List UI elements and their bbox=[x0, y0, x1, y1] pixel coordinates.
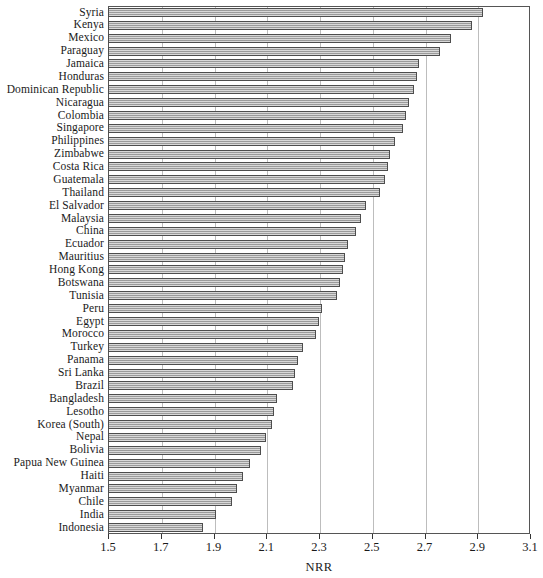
x-tick-mark bbox=[161, 534, 162, 539]
bar-row bbox=[108, 109, 530, 122]
x-tick-label: 1.9 bbox=[194, 540, 234, 555]
category-label: Indonesia bbox=[0, 521, 104, 534]
category-label: Botswana bbox=[0, 276, 104, 289]
category-label: Panama bbox=[0, 353, 104, 366]
bar-row bbox=[108, 122, 530, 135]
bar-row bbox=[108, 6, 530, 19]
bar-row bbox=[108, 238, 530, 251]
bar-row bbox=[108, 45, 530, 58]
bar-row bbox=[108, 251, 530, 264]
bar-row bbox=[108, 470, 530, 483]
bar-row bbox=[108, 418, 530, 431]
bar-row bbox=[108, 444, 530, 457]
bar-row bbox=[108, 161, 530, 174]
bar bbox=[108, 394, 277, 403]
category-label: Peru bbox=[0, 302, 104, 315]
category-label: Honduras bbox=[0, 70, 104, 83]
bar bbox=[108, 278, 340, 287]
bar-row bbox=[108, 289, 530, 302]
bar bbox=[108, 253, 345, 262]
bar-row bbox=[108, 405, 530, 418]
bar bbox=[108, 291, 337, 300]
category-label: Mauritius bbox=[0, 250, 104, 263]
category-label: Colombia bbox=[0, 109, 104, 122]
bar-row bbox=[108, 186, 530, 199]
bar bbox=[108, 510, 216, 519]
x-tick-label: 3.1 bbox=[510, 540, 543, 555]
category-label: Malaysia bbox=[0, 212, 104, 225]
bar bbox=[108, 162, 388, 171]
bar bbox=[108, 47, 440, 56]
bar bbox=[108, 330, 316, 339]
category-label: Mexico bbox=[0, 31, 104, 44]
bar-row bbox=[108, 32, 530, 45]
bar bbox=[108, 407, 274, 416]
bar-row bbox=[108, 367, 530, 380]
x-tick-mark bbox=[372, 534, 373, 539]
bar bbox=[108, 484, 237, 493]
bar bbox=[108, 59, 419, 68]
bar-row bbox=[108, 315, 530, 328]
category-label: Ecuador bbox=[0, 237, 104, 250]
category-label: Nepal bbox=[0, 430, 104, 443]
bar-row bbox=[108, 521, 530, 534]
bar-row bbox=[108, 302, 530, 315]
category-label: Morocco bbox=[0, 327, 104, 340]
bar-row bbox=[108, 495, 530, 508]
bar bbox=[108, 111, 406, 120]
bar bbox=[108, 137, 395, 146]
bar-row bbox=[108, 58, 530, 71]
bar bbox=[108, 523, 203, 532]
category-label: Nicaragua bbox=[0, 96, 104, 109]
bar-row bbox=[108, 225, 530, 238]
bar-row bbox=[108, 508, 530, 521]
bar bbox=[108, 85, 414, 94]
x-tick-mark bbox=[319, 534, 320, 539]
bar bbox=[108, 304, 322, 313]
category-label: Dominican Republic bbox=[0, 83, 104, 96]
bar-row bbox=[108, 457, 530, 470]
category-label: Guatemala bbox=[0, 173, 104, 186]
bar-row bbox=[108, 264, 530, 277]
category-label: Bangladesh bbox=[0, 392, 104, 405]
bar bbox=[108, 124, 403, 133]
x-tick-mark bbox=[425, 534, 426, 539]
x-tick-label: 2.7 bbox=[405, 540, 445, 555]
category-label: Papua New Guinea bbox=[0, 456, 104, 469]
x-tick-mark bbox=[214, 534, 215, 539]
bar-row bbox=[108, 212, 530, 225]
bar bbox=[108, 265, 343, 274]
bar bbox=[108, 21, 472, 30]
bars-layer bbox=[108, 6, 530, 534]
bar-row bbox=[108, 392, 530, 405]
bar bbox=[108, 420, 272, 429]
x-tick-label: 1.5 bbox=[88, 540, 128, 555]
category-label: Zimbabwe bbox=[0, 147, 104, 160]
category-label: Philippines bbox=[0, 134, 104, 147]
category-label: China bbox=[0, 224, 104, 237]
x-tick-label: 2.5 bbox=[352, 540, 392, 555]
bar bbox=[108, 201, 366, 210]
category-label: Lesotho bbox=[0, 405, 104, 418]
bar bbox=[108, 459, 250, 468]
bar-row bbox=[108, 173, 530, 186]
bar-row bbox=[108, 276, 530, 289]
x-tick-mark bbox=[477, 534, 478, 539]
bar bbox=[108, 343, 303, 352]
bar-row bbox=[108, 379, 530, 392]
bar-row bbox=[108, 83, 530, 96]
category-label: Thailand bbox=[0, 186, 104, 199]
x-axis: NRR 1.51.71.92.12.32.52.72.93.1 bbox=[108, 534, 530, 578]
category-label: Bolivia bbox=[0, 443, 104, 456]
category-label: Costa Rica bbox=[0, 160, 104, 173]
bar bbox=[108, 446, 261, 455]
bar bbox=[108, 317, 319, 326]
x-tick-label: 2.1 bbox=[246, 540, 286, 555]
category-label: Myanmar bbox=[0, 482, 104, 495]
x-tick-mark bbox=[530, 534, 531, 539]
category-label: Tunisia bbox=[0, 289, 104, 302]
x-tick-label: 2.9 bbox=[457, 540, 497, 555]
category-label: Jamaica bbox=[0, 57, 104, 70]
bar bbox=[108, 188, 380, 197]
category-labels: SyriaKenyaMexicoParaguayJamaicaHondurasD… bbox=[0, 6, 104, 534]
